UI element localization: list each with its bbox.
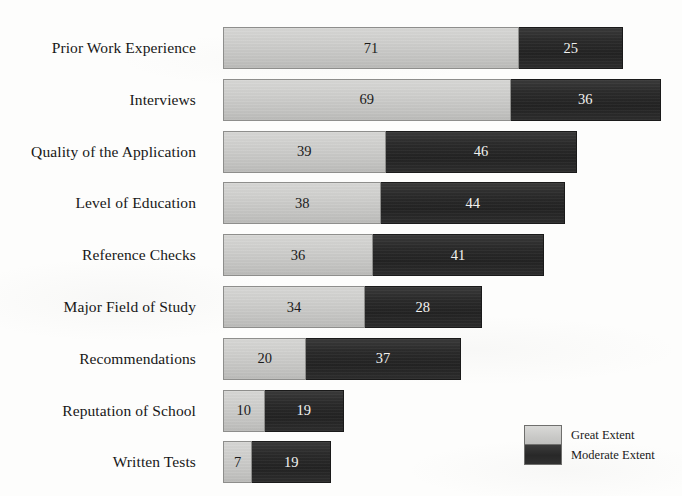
bar-value-label: 34 bbox=[287, 299, 302, 316]
bar-segment-great-extent: 71 bbox=[223, 27, 519, 69]
legend-swatch-great-extent bbox=[525, 426, 561, 445]
legend-label-great-extent: Great Extent bbox=[571, 425, 655, 445]
bar-segment-moderate-extent: 41 bbox=[373, 234, 544, 276]
bar-segment-moderate-extent: 46 bbox=[386, 131, 578, 173]
bar-value-label: 69 bbox=[360, 91, 375, 108]
bar-value-label: 38 bbox=[295, 195, 310, 212]
category-label: Interviews bbox=[0, 79, 196, 121]
bar-value-label: 36 bbox=[578, 91, 593, 108]
bar-segment-moderate-extent: 36 bbox=[511, 79, 661, 121]
bar-segment-great-extent: 10 bbox=[223, 390, 265, 432]
stacked-bar: 7125 bbox=[223, 27, 623, 69]
category-label: Prior Work Experience bbox=[0, 27, 196, 69]
bar-segment-great-extent: 34 bbox=[223, 286, 365, 328]
bar-value-label: 37 bbox=[376, 350, 391, 367]
stacked-bar: 719 bbox=[223, 441, 331, 483]
bar-value-label: 7 bbox=[234, 454, 241, 471]
category-label: Level of Education bbox=[0, 182, 196, 224]
bar-segment-moderate-extent: 19 bbox=[252, 441, 331, 483]
legend-swatch-moderate-extent bbox=[525, 445, 561, 464]
stacked-bar: 3428 bbox=[223, 286, 482, 328]
legend-swatch-group bbox=[524, 425, 562, 465]
legend-label-group: Great Extent Moderate Extent bbox=[571, 425, 655, 465]
bar-segment-moderate-extent: 25 bbox=[519, 27, 623, 69]
bar-segment-moderate-extent: 37 bbox=[306, 338, 460, 380]
bar-segment-moderate-extent: 44 bbox=[381, 182, 564, 224]
stacked-bar: 2037 bbox=[223, 338, 461, 380]
stacked-bar: 3844 bbox=[223, 182, 565, 224]
stacked-bar: 6936 bbox=[223, 79, 661, 121]
bar-segment-great-extent: 39 bbox=[223, 131, 386, 173]
bar-value-label: 19 bbox=[297, 402, 312, 419]
chart-bar-row: Prior Work Experience7125 bbox=[0, 27, 682, 69]
chart-bar-row: Interviews6936 bbox=[0, 79, 682, 121]
category-label: Reputation of School bbox=[0, 390, 196, 432]
bar-value-label: 71 bbox=[364, 40, 379, 57]
category-label: Reference Checks bbox=[0, 234, 196, 276]
chart-figure: Prior Work Experience7125Interviews6936Q… bbox=[0, 0, 682, 496]
bar-segment-moderate-extent: 28 bbox=[365, 286, 482, 328]
bar-segment-great-extent: 36 bbox=[223, 234, 373, 276]
bar-segment-great-extent: 7 bbox=[223, 441, 252, 483]
chart-bar-row: Recommendations2037 bbox=[0, 338, 682, 380]
bar-value-label: 44 bbox=[465, 195, 480, 212]
bar-segment-great-extent: 69 bbox=[223, 79, 511, 121]
chart-legend: Great Extent Moderate Extent bbox=[524, 425, 655, 465]
bar-value-label: 19 bbox=[284, 454, 299, 471]
chart-bar-row: Major Field of Study3428 bbox=[0, 286, 682, 328]
stacked-bar: 1019 bbox=[223, 390, 344, 432]
bar-value-label: 20 bbox=[257, 350, 272, 367]
category-label: Written Tests bbox=[0, 441, 196, 483]
stacked-bar-chart-plot-area: Prior Work Experience7125Interviews6936Q… bbox=[0, 0, 682, 496]
bar-value-label: 46 bbox=[474, 143, 489, 160]
bar-value-label: 28 bbox=[415, 299, 430, 316]
bar-value-label: 39 bbox=[297, 143, 312, 160]
chart-bar-row: Quality of the Application3946 bbox=[0, 131, 682, 173]
bar-value-label: 10 bbox=[237, 402, 252, 419]
bar-value-label: 25 bbox=[563, 40, 578, 57]
bar-value-label: 41 bbox=[451, 247, 466, 264]
stacked-bar: 3946 bbox=[223, 131, 577, 173]
category-label: Quality of the Application bbox=[0, 131, 196, 173]
category-label: Major Field of Study bbox=[0, 286, 196, 328]
bar-value-label: 36 bbox=[291, 247, 306, 264]
bar-segment-moderate-extent: 19 bbox=[265, 390, 344, 432]
category-label: Recommendations bbox=[0, 338, 196, 380]
legend-label-moderate-extent: Moderate Extent bbox=[571, 445, 655, 465]
bar-segment-great-extent: 20 bbox=[223, 338, 306, 380]
bar-segment-great-extent: 38 bbox=[223, 182, 381, 224]
chart-bar-row: Level of Education3844 bbox=[0, 182, 682, 224]
chart-bar-row: Reference Checks3641 bbox=[0, 234, 682, 276]
stacked-bar: 3641 bbox=[223, 234, 544, 276]
